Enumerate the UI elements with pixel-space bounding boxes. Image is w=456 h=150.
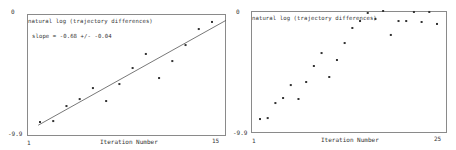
regression-line bbox=[38, 20, 226, 125]
data-point bbox=[259, 118, 261, 120]
data-point bbox=[132, 67, 134, 69]
data-point bbox=[198, 28, 200, 30]
data-point bbox=[359, 20, 361, 22]
data-point bbox=[313, 65, 315, 67]
data-point bbox=[421, 21, 423, 23]
data-point bbox=[290, 84, 292, 86]
left-chart-panel: 0 -9.9 natural log (trajectory differenc… bbox=[0, 0, 228, 150]
data-point bbox=[105, 100, 107, 102]
data-point bbox=[428, 11, 430, 13]
x-axis-title: Iteration Number bbox=[321, 136, 379, 143]
left-plot-area bbox=[0, 0, 228, 150]
right-chart-panel: 0 -9.9 natural log (trajectory differenc… bbox=[228, 0, 456, 150]
data-point bbox=[351, 27, 353, 29]
x-axis-min-label: 1 bbox=[27, 139, 31, 146]
data-point bbox=[267, 117, 269, 119]
data-point bbox=[118, 83, 120, 85]
data-point bbox=[436, 23, 438, 25]
data-point bbox=[211, 21, 213, 23]
data-point bbox=[382, 10, 384, 12]
x-axis-max-label: 25 bbox=[434, 135, 441, 142]
data-point bbox=[305, 81, 307, 83]
data-point bbox=[274, 102, 276, 104]
data-point bbox=[413, 11, 415, 13]
data-point bbox=[171, 60, 173, 62]
x-axis-max-label: 15 bbox=[212, 137, 219, 144]
data-point bbox=[405, 20, 407, 22]
data-point bbox=[39, 121, 41, 123]
x-axis-title: Iteration Number bbox=[100, 138, 158, 145]
data-point bbox=[336, 59, 338, 61]
data-point bbox=[297, 98, 299, 100]
data-point bbox=[321, 52, 323, 54]
data-point bbox=[52, 120, 54, 122]
data-point bbox=[282, 97, 284, 99]
data-point bbox=[79, 98, 81, 100]
data-point bbox=[185, 44, 187, 46]
data-point bbox=[92, 87, 94, 89]
data-point bbox=[145, 53, 147, 55]
right-plot-area bbox=[228, 0, 456, 150]
data-point bbox=[65, 105, 67, 107]
data-point bbox=[344, 42, 346, 44]
data-point bbox=[398, 20, 400, 22]
data-point bbox=[158, 77, 160, 79]
data-point bbox=[374, 18, 376, 20]
x-axis-min-label: 1 bbox=[252, 137, 256, 144]
data-point bbox=[390, 34, 392, 36]
data-point bbox=[328, 76, 330, 78]
data-point bbox=[367, 12, 369, 14]
